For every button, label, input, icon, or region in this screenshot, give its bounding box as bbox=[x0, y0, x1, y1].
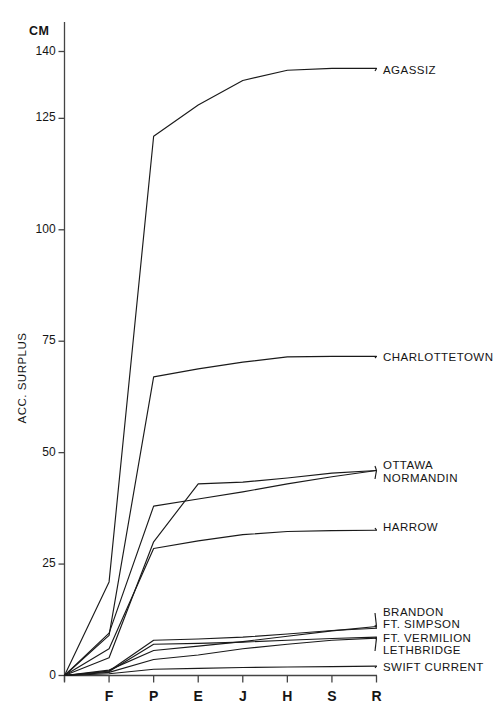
leader-line-normandin bbox=[375, 470, 377, 479]
plot-area bbox=[0, 0, 497, 714]
legend-leader-lines bbox=[375, 68, 377, 668]
data-series-lines bbox=[65, 68, 377, 675]
leader-line-lethbridge bbox=[375, 638, 377, 651]
series-line-swift-current bbox=[65, 666, 377, 675]
line-chart: CM ACC. SURPLUS 0255075100125140 FPEJHSR… bbox=[0, 0, 497, 714]
leader-line-brandon bbox=[375, 613, 377, 626]
series-line-agassiz bbox=[65, 68, 377, 675]
axes bbox=[59, 22, 378, 683]
leader-line-ottawa bbox=[375, 466, 377, 470]
series-line-harrow bbox=[65, 530, 377, 675]
